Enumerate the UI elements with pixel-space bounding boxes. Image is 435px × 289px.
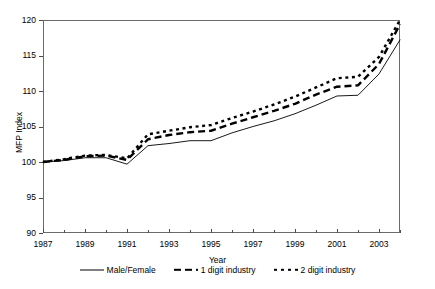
x-axis-minor-tick-mark [274,230,275,233]
x-axis-tick-mark [253,229,254,233]
y-axis-tick-mark [39,91,43,92]
y-axis-title: MFP Index [14,112,24,153]
legend-swatch-dotted-icon [274,267,298,274]
y-axis-tick-label: 110 [8,87,36,96]
x-axis-minor-tick-mark [400,230,401,233]
x-axis-tick-mark [85,229,86,233]
x-axis-tick-label: 1999 [275,240,315,249]
y-axis-tick-label: 90 [8,229,36,238]
x-axis-tick-mark [169,229,170,233]
x-axis-tick-label: 1995 [191,240,231,249]
x-axis-tick-label: 1993 [149,240,189,249]
x-axis-tick-label: 1997 [233,240,273,249]
x-axis-tick-label: 1989 [65,240,105,249]
legend-swatch-solid-icon [80,267,104,274]
legend-item-2: 1 digit industry [174,265,256,275]
x-axis-tick-mark [43,229,44,233]
x-axis-tick-mark [337,229,338,233]
y-axis-tick-mark [39,162,43,163]
y-axis-tick-label: 100 [8,158,36,167]
y-axis-tick-mark [39,56,43,57]
x-axis-tick-mark [379,229,380,233]
x-axis-tick-label: 2001 [317,240,357,249]
plot-area-frame [43,20,400,233]
x-axis-tick-mark [211,229,212,233]
x-axis-minor-tick-mark [316,230,317,233]
legend-item-1: Male/Female [80,265,156,275]
legend-label: 1 digit industry [201,265,256,275]
chart-legend: Male/Female1 digit industry2 digit indus… [0,265,435,275]
x-axis-title: Year [0,255,435,265]
y-axis-tick-label: 95 [8,193,36,202]
y-axis-tick-label: 120 [8,16,36,25]
x-axis-tick-label: 1991 [107,240,147,249]
y-axis-tick-label: 115 [8,51,36,60]
x-axis-tick-label: 2003 [359,240,399,249]
x-axis-minor-tick-mark [64,230,65,233]
x-axis-tick-mark [295,229,296,233]
legend-item-3: 2 digit industry [274,265,356,275]
y-axis-tick-mark [39,20,43,21]
x-axis-minor-tick-mark [106,230,107,233]
x-axis-minor-tick-mark [232,230,233,233]
legend-label: Male/Female [107,265,156,275]
y-axis-tick-mark [39,127,43,128]
x-axis-minor-tick-mark [190,230,191,233]
x-axis-tick-mark [127,229,128,233]
legend-swatch-dashed-icon [174,267,198,274]
y-axis-tick-mark [39,233,43,234]
x-axis-tick-label: 1987 [23,240,63,249]
mfp-index-line-chart: 9095100105110115120 19871989199119931995… [0,0,435,289]
legend-label: 2 digit industry [301,265,356,275]
y-axis-tick-mark [39,198,43,199]
x-axis-minor-tick-mark [358,230,359,233]
x-axis-minor-tick-mark [148,230,149,233]
